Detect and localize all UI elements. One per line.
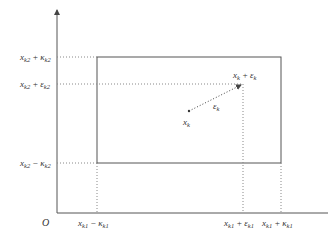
vector-label: εk xyxy=(213,101,220,112)
origin-label: O xyxy=(42,217,49,228)
x-label-mid: xk1+εk1 xyxy=(223,218,254,229)
y-label-top: xk2+κk2 xyxy=(19,52,51,63)
x-label-right: xk1+κk1 xyxy=(261,218,293,229)
point-label: xk xyxy=(182,117,190,128)
perturbation-box-diagram: O xk2+κk2 xk2+εk2 xk2−κk2 xk1−κk1 xk1+εk… xyxy=(0,0,334,239)
y-label-bottom: xk2−κk2 xyxy=(19,158,51,169)
x-label-left: xk1−κk1 xyxy=(77,218,109,229)
target-label: xk+εk xyxy=(232,70,257,81)
y-label-upper: xk2+εk2 xyxy=(19,79,51,90)
